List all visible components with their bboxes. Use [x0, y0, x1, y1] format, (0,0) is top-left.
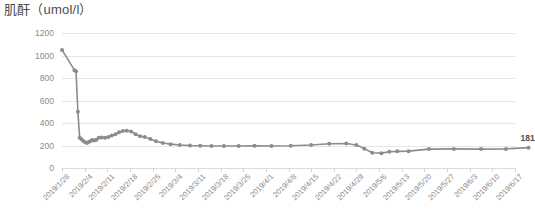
data-point [169, 142, 173, 146]
data-point [253, 144, 257, 148]
data-point [387, 150, 391, 154]
series-line [62, 50, 529, 153]
x-tick-label: 2019/4/1 [248, 172, 275, 199]
y-tick-label: 1000 [35, 51, 54, 60]
data-point [74, 69, 78, 73]
data-point [76, 110, 80, 114]
x-tick-label: 2019/1/28 [41, 172, 71, 202]
data-point [110, 134, 114, 138]
data-point [148, 137, 152, 141]
y-tick-label: 600 [40, 96, 54, 105]
data-point [161, 141, 165, 145]
data-point [504, 147, 508, 151]
data-point [117, 130, 121, 134]
data-point [354, 143, 358, 147]
y-tick-label: 400 [40, 119, 54, 128]
data-point [479, 147, 483, 151]
data-point [154, 139, 158, 143]
data-point [237, 144, 241, 148]
data-point [427, 147, 431, 151]
end-value-label: 181 [520, 134, 534, 143]
data-point [370, 151, 374, 155]
y-tick-label: 800 [40, 74, 54, 83]
data-point [100, 135, 104, 139]
data-point [113, 132, 117, 136]
data-point [327, 142, 331, 146]
data-point [178, 143, 182, 147]
data-point [452, 147, 456, 151]
data-point [198, 144, 202, 148]
x-axis: 2019/1/282019/2/42019/2/112019/2/182019/… [62, 172, 532, 219]
data-point [134, 132, 138, 136]
data-point [309, 143, 313, 147]
chart-title: 肌酐（umol/l） [4, 2, 93, 18]
data-point [209, 144, 213, 148]
data-point [60, 48, 64, 52]
y-tick-label: 1200 [35, 29, 54, 38]
data-point [138, 134, 142, 138]
data-point [125, 129, 129, 133]
data-point [344, 141, 348, 145]
data-point [106, 135, 110, 139]
data-point [222, 144, 226, 148]
data-point [270, 144, 274, 148]
data-point [103, 136, 107, 140]
y-tick-label: 0 [49, 164, 54, 173]
data-point [395, 149, 399, 153]
data-point [407, 149, 411, 153]
data-point [362, 147, 366, 151]
y-axis: 120010008006004002000 [0, 33, 58, 168]
data-point [379, 151, 383, 155]
creatinine-series [62, 33, 515, 168]
data-point [143, 135, 147, 139]
y-tick-label: 200 [40, 141, 54, 150]
data-point [527, 146, 531, 150]
plot-area [62, 33, 515, 168]
data-point [129, 129, 133, 133]
data-point [121, 129, 125, 133]
data-point [188, 144, 192, 148]
data-point [289, 144, 293, 148]
